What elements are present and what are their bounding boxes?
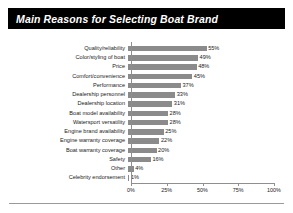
bar-track: 22% (128, 137, 281, 146)
x-axis-tick (131, 183, 132, 186)
bar-track: 25% (128, 127, 281, 136)
bar (128, 129, 164, 134)
bar (128, 46, 207, 51)
bar-row: Quality/reliability55% (0, 44, 293, 53)
bar (128, 64, 197, 69)
bar-row: Other4% (0, 164, 293, 173)
bar-row: Color/styling of boat49% (0, 53, 293, 62)
bar-row: Celebrity endorsement1% (0, 174, 293, 183)
bar-track: 20% (128, 146, 281, 155)
bar-track: 16% (128, 155, 281, 164)
bottom-divider (9, 203, 284, 204)
bar (128, 83, 181, 88)
x-axis-tick-label: 25% (161, 187, 172, 193)
bar-value-label: 31% (172, 101, 185, 107)
bar-category-label: Engine brand availability (0, 129, 128, 135)
bar-value-label: 33% (175, 92, 188, 98)
x-axis-tick (238, 183, 239, 186)
bar (128, 120, 168, 125)
bar-category-label: Safety (0, 157, 128, 163)
bar-value-label: 20% (157, 148, 170, 154)
bar-value-label: 28% (168, 111, 181, 117)
bar-track: 49% (128, 53, 281, 62)
bar-row: Engine warranty coverage22% (0, 137, 293, 146)
bar-value-label: 4% (134, 166, 144, 172)
bar-row: Safety16% (0, 155, 293, 164)
bar-category-label: Price (0, 64, 128, 70)
bar-track: 28% (128, 109, 281, 118)
bar (128, 148, 157, 153)
bar (128, 92, 175, 97)
bar-row: Engine brand availability25% (0, 127, 293, 136)
bar-row: Boat warranty coverage20% (0, 146, 293, 155)
bar (128, 74, 192, 79)
bar-rows: Quality/reliability55%Color/styling of b… (0, 44, 293, 183)
bar-value-label: 25% (164, 129, 177, 135)
bar-row: Comfort/convenience45% (0, 72, 293, 81)
bar-category-label: Boat model availability (0, 111, 128, 117)
bar-category-label: Color/styling of boat (0, 55, 128, 61)
bar-row: Performance37% (0, 81, 293, 90)
bar-value-label: 49% (198, 55, 211, 61)
bar-row: Price48% (0, 63, 293, 72)
bar-value-label: 45% (192, 74, 205, 80)
bar-category-label: Celebrity endorsement (0, 175, 128, 181)
y-axis-line (131, 42, 132, 184)
bar-category-label: Performance (0, 83, 128, 89)
bar-track: 31% (128, 100, 281, 109)
bar-track: 55% (128, 44, 281, 53)
bar-track: 48% (128, 63, 281, 72)
bar-value-label: 22% (159, 138, 172, 144)
x-axis-tick-label: 100% (267, 187, 281, 193)
bar-category-label: Dealership location (0, 101, 128, 107)
bar-track: 28% (128, 118, 281, 127)
x-axis-tick-label: 75% (233, 187, 244, 193)
x-axis-tick (274, 183, 275, 186)
bar-value-label: 48% (197, 64, 210, 70)
x-axis-tick (203, 183, 204, 186)
bar-track: 4% (128, 164, 281, 173)
title-banner: Main Reasons for Selecting Boat Brand (8, 8, 285, 29)
bar-row: Watersport versatility28% (0, 118, 293, 127)
x-axis-tick-label: 0% (127, 187, 135, 193)
bar-category-label: Other (0, 166, 128, 172)
x-axis-tick-label: 50% (197, 187, 208, 193)
bar-category-label: Dealership personnel (0, 92, 128, 98)
x-axis-tick (167, 183, 168, 186)
bar-chart: Quality/reliability55%Color/styling of b… (0, 40, 293, 195)
bar (128, 101, 172, 106)
page-title: Main Reasons for Selecting Boat Brand (8, 13, 218, 25)
bar-value-label: 55% (207, 46, 220, 52)
bar-category-label: Comfort/convenience (0, 74, 128, 80)
bar-value-label: 28% (168, 120, 181, 126)
bar (128, 138, 159, 143)
bar-value-label: 37% (181, 83, 194, 89)
bar-track: 45% (128, 72, 281, 81)
bar (128, 55, 198, 60)
bar-category-label: Engine warranty coverage (0, 138, 128, 144)
bar-category-label: Boat warranty coverage (0, 148, 128, 154)
bar-row: Dealership personnel33% (0, 90, 293, 99)
bar-row: Dealership location31% (0, 100, 293, 109)
bar (128, 111, 168, 116)
bar-category-label: Watersport versatility (0, 120, 128, 126)
bar-row: Boat model availability28% (0, 109, 293, 118)
chart-page: Main Reasons for Selecting Boat Brand Qu… (0, 0, 293, 213)
bar-category-label: Quality/reliability (0, 46, 128, 52)
bar-track: 33% (128, 90, 281, 99)
bar-track: 1% (128, 174, 281, 183)
bar-value-label: 16% (151, 157, 164, 163)
bar-track: 37% (128, 81, 281, 90)
